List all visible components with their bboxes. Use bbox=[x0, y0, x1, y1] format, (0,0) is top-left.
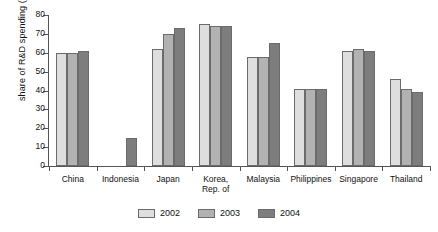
bar-group bbox=[240, 15, 288, 166]
x-tick-mark bbox=[144, 166, 145, 171]
bar bbox=[412, 92, 423, 166]
chart-legend: 200220032004 bbox=[0, 208, 438, 218]
bar bbox=[174, 28, 185, 166]
plot-area: 01020304050607080 bbox=[48, 15, 430, 166]
bar-group bbox=[144, 15, 192, 166]
legend-label: 2004 bbox=[280, 208, 300, 218]
bar-group-bars bbox=[382, 15, 430, 166]
bar bbox=[316, 89, 327, 166]
bar bbox=[401, 89, 412, 166]
y-axis-title: share of R&D spending (%) bbox=[17, 0, 27, 125]
bar bbox=[163, 34, 174, 166]
legend-item[interactable]: 2002 bbox=[138, 208, 180, 218]
bar-group-bars bbox=[97, 15, 145, 166]
y-tick-label: 70 bbox=[36, 28, 45, 38]
bar bbox=[221, 26, 232, 166]
x-axis-category-label: Korea,Rep. of bbox=[192, 174, 240, 194]
x-axis-category-label: China bbox=[49, 174, 97, 194]
x-tick-mark bbox=[382, 166, 383, 171]
bar bbox=[305, 89, 316, 166]
bar bbox=[342, 51, 353, 166]
x-axis-category-label: Philippines bbox=[287, 174, 335, 194]
legend-swatch bbox=[138, 209, 155, 218]
x-tick-mark bbox=[335, 166, 336, 171]
bar-group bbox=[97, 15, 145, 166]
x-tick-mark bbox=[287, 166, 288, 171]
bar-group-bars bbox=[192, 15, 240, 166]
bar bbox=[258, 57, 269, 166]
bar-group-bars bbox=[287, 15, 335, 166]
x-axis-category-label: Malaysia bbox=[240, 174, 288, 194]
bar-group bbox=[192, 15, 240, 166]
bar-chart: share of R&D spending (%) 01020304050607… bbox=[0, 0, 438, 232]
bar bbox=[126, 138, 137, 166]
bar bbox=[78, 51, 89, 166]
x-tick-mark bbox=[49, 166, 50, 171]
x-tick-mark bbox=[430, 166, 431, 171]
y-tick-label: 80 bbox=[36, 9, 45, 19]
x-tick-mark bbox=[240, 166, 241, 171]
y-tick-label: 50 bbox=[36, 66, 45, 76]
bar bbox=[353, 49, 364, 166]
x-axis-category-label: Indonesia bbox=[97, 174, 145, 194]
y-tick-label: 0 bbox=[40, 160, 45, 170]
bar-groups bbox=[49, 15, 430, 166]
bar bbox=[152, 49, 163, 166]
bar bbox=[199, 24, 210, 166]
bar bbox=[210, 26, 221, 166]
bar-group-bars bbox=[144, 15, 192, 166]
y-tick-label: 60 bbox=[36, 47, 45, 57]
legend-swatch bbox=[258, 209, 275, 218]
x-axis-category-label: Singapore bbox=[335, 174, 383, 194]
bar-group bbox=[335, 15, 383, 166]
bar bbox=[56, 53, 67, 166]
bar-group bbox=[382, 15, 430, 166]
bar bbox=[67, 53, 78, 166]
x-tick-mark bbox=[97, 166, 98, 171]
legend-label: 2003 bbox=[220, 208, 240, 218]
bar-group-bars bbox=[49, 15, 97, 166]
y-tick-label: 40 bbox=[36, 85, 45, 95]
bar-group-bars bbox=[335, 15, 383, 166]
legend-item[interactable]: 2003 bbox=[198, 208, 240, 218]
y-tick-label: 10 bbox=[36, 141, 45, 151]
bar bbox=[269, 43, 280, 166]
bar-group bbox=[49, 15, 97, 166]
x-axis-category-label: Japan bbox=[144, 174, 192, 194]
x-axis-category-labels: ChinaIndonesiaJapanKorea,Rep. ofMalaysia… bbox=[49, 174, 430, 194]
bar-group-bars bbox=[240, 15, 288, 166]
x-axis-category-label: Thailand bbox=[382, 174, 430, 194]
x-tick-mark bbox=[192, 166, 193, 171]
y-tick-label: 30 bbox=[36, 103, 45, 113]
bar bbox=[247, 57, 258, 166]
y-tick-label: 20 bbox=[36, 122, 45, 132]
bar-group bbox=[287, 15, 335, 166]
legend-item[interactable]: 2004 bbox=[258, 208, 300, 218]
bar bbox=[390, 79, 401, 166]
bar bbox=[294, 89, 305, 166]
bar bbox=[364, 51, 375, 166]
legend-label: 2002 bbox=[160, 208, 180, 218]
legend-swatch bbox=[198, 209, 215, 218]
